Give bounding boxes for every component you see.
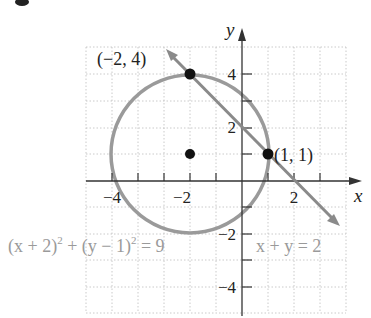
y-axis — [238, 28, 252, 316]
scan-artifact — [15, 0, 29, 6]
x-axis-arrow-icon — [349, 177, 362, 185]
y-tick-label: 4 — [228, 65, 237, 84]
svg-text:(x + 2)2 + (y − 1)2 = 9: (x + 2)2 + (y − 1)2 = 9 — [8, 234, 165, 257]
y-axis-arrow-icon — [238, 28, 246, 41]
circle-center-point — [185, 149, 195, 159]
y-axis-label: y — [224, 19, 235, 40]
graph-figure: −4 −2 2 4 2 −2 −4 x y (−2, 4) (1, 1) (x … — [0, 0, 371, 318]
y-tick-label: −4 — [218, 278, 237, 297]
x-axis-label: x — [353, 185, 363, 206]
circle-equation: (x + 2)2 + (y − 1)2 = 9 — [8, 234, 165, 257]
line-equation: x + y = 2 — [256, 236, 321, 256]
point-label-a: (−2, 4) — [97, 49, 146, 70]
point-label-b: (1, 1) — [274, 145, 313, 166]
y-tick-label: 2 — [228, 118, 237, 137]
x-tick-label: −2 — [173, 188, 191, 207]
point-neg2-4 — [185, 69, 196, 80]
point-1-1 — [263, 149, 274, 160]
x-tick-label: −4 — [103, 188, 122, 207]
x-axis — [86, 173, 362, 185]
x-tick-label: 2 — [290, 188, 299, 207]
y-tick-label: −2 — [218, 225, 236, 244]
